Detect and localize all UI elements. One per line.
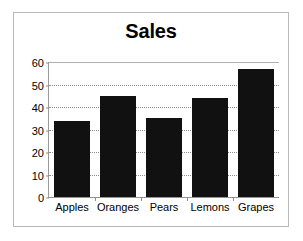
bar-lemons[interactable] — [192, 98, 228, 197]
y-tick-label-30: 30 — [32, 125, 44, 136]
y-tick-label-0: 0 — [38, 193, 44, 204]
chart-frame: Sales 6050403020100 ApplesOrangesPearsLe… — [13, 12, 289, 227]
bar-slot-pears — [141, 62, 187, 197]
plot-area: 6050403020100 ApplesOrangesPearsLemonsGr… — [48, 62, 279, 198]
bar-apples[interactable] — [54, 121, 90, 198]
bar-slot-oranges — [95, 62, 141, 197]
bar-pears[interactable] — [146, 118, 182, 197]
y-tick-label-60: 60 — [32, 58, 44, 69]
bar-slot-lemons — [187, 62, 233, 197]
bar-slot-apples — [49, 62, 95, 197]
bar-slot-grapes — [233, 62, 279, 197]
chart-title: Sales — [14, 19, 288, 43]
y-tick-label-40: 40 — [32, 103, 44, 114]
x-axis-label-lemons: Lemons — [187, 201, 233, 214]
y-tick-label-10: 10 — [32, 170, 44, 181]
x-axis-label-grapes: Grapes — [233, 201, 279, 214]
y-tick-label-50: 50 — [32, 80, 44, 91]
x-axis-label-pears: Pears — [141, 201, 187, 214]
x-axis-labels: ApplesOrangesPearsLemonsGrapes — [49, 201, 279, 214]
bar-oranges[interactable] — [100, 96, 136, 197]
x-axis-label-apples: Apples — [49, 201, 95, 214]
y-tick-label-20: 20 — [32, 148, 44, 159]
bar-grapes[interactable] — [238, 69, 274, 197]
bars-layer — [49, 62, 279, 197]
x-axis-label-oranges: Oranges — [95, 201, 141, 214]
